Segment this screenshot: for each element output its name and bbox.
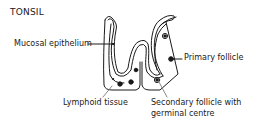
mucosal-leader-dot	[112, 43, 114, 45]
label-mucosal-epithelium: Mucosal epithelium	[14, 39, 92, 49]
secondary-follicle-2-centre	[156, 79, 158, 81]
lymphoid-speck	[112, 78, 113, 79]
lymphoid-dot-3	[129, 80, 133, 84]
crypt-right-inner	[154, 17, 176, 76]
secondary-follicle-1-centre	[164, 35, 166, 37]
label-primary-follicle: Primary follicle	[184, 53, 243, 63]
lymphoid-dot-1	[134, 68, 138, 72]
label-secondary-follicle: Secondary follicle with	[151, 98, 241, 108]
lymphoid-leader	[103, 86, 112, 97]
label-germinal-centre: germinal centre	[151, 109, 214, 119]
label-lymphoid-tissue: Lymphoid tissue	[63, 98, 128, 108]
lymphoid-dot-2	[118, 82, 122, 86]
